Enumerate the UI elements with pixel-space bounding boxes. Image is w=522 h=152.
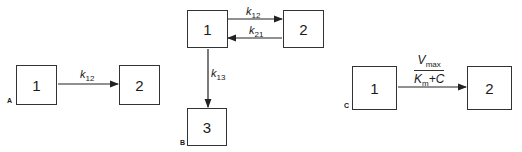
compartment-b-3: 3 xyxy=(187,108,227,146)
compartment-c-1: 1 xyxy=(352,66,397,110)
panel-label-c: C xyxy=(344,102,349,109)
compartment-c-2: 2 xyxy=(467,66,512,110)
panel-label-a: A xyxy=(7,97,12,104)
rate-denominator: Km+C xyxy=(414,72,444,88)
compartment-b-2: 2 xyxy=(283,10,324,48)
rate-b-k12: k12 xyxy=(246,5,260,20)
rate-c-michaelis-menten: Vmax Km+C xyxy=(414,53,444,89)
compartment-label: 2 xyxy=(485,80,493,97)
compartment-b-1: 1 xyxy=(187,10,228,48)
compartment-label: 1 xyxy=(203,21,211,38)
compartment-a-1: 1 xyxy=(16,65,57,105)
fraction-bar xyxy=(414,70,444,71)
rate-a-k12: k12 xyxy=(80,68,94,83)
compartment-label: 2 xyxy=(299,21,307,38)
rate-numerator: Vmax xyxy=(418,53,441,69)
rate-b-k13: k13 xyxy=(211,67,225,82)
compartment-label: 2 xyxy=(135,77,143,94)
compartment-label: 3 xyxy=(203,119,211,136)
compartment-label: 1 xyxy=(32,77,40,94)
compartment-a-2: 2 xyxy=(119,65,160,105)
panel-label-b: B xyxy=(180,139,185,146)
compartment-label: 1 xyxy=(370,80,378,97)
rate-b-k21: k21 xyxy=(249,24,263,39)
